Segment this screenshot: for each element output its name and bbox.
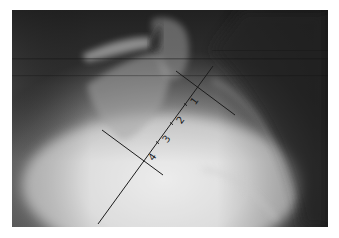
segment-label-1: 1 (188, 95, 201, 107)
segment-label-4: 4 (146, 151, 159, 163)
segment-label-3: 3 (160, 133, 173, 145)
main-axis-line (98, 66, 213, 224)
lower-perpendicular-line (102, 130, 163, 175)
segment-label-2: 2 (174, 114, 187, 126)
segment-labels: 1 2 3 4 (146, 95, 201, 163)
measurement-overlay: 1 2 3 4 (0, 0, 339, 238)
upper-perpendicular-line (176, 71, 235, 115)
